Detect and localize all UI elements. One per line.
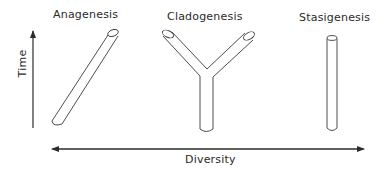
stasigenesis-tube	[327, 36, 337, 131]
diversity-axis-label: Diversity	[185, 153, 236, 166]
cladogenesis-tube	[161, 28, 256, 131]
stasigenesis-label: Stasigenesis	[299, 11, 370, 24]
anagenesis-tube	[52, 28, 119, 125]
time-axis-label: Time	[16, 46, 29, 82]
anagenesis-label: Anagenesis	[53, 8, 118, 21]
evolution-diagram	[0, 0, 385, 175]
cladogenesis-label: Cladogenesis	[167, 10, 243, 23]
